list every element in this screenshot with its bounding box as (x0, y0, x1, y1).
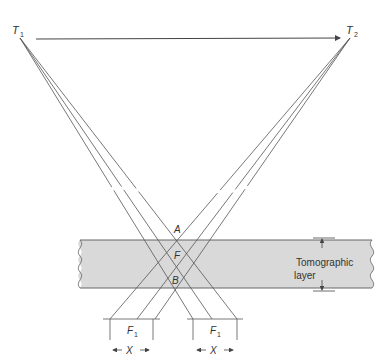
layer-label-line1: Tomographic (296, 257, 353, 268)
tube-t2-label: T (346, 24, 354, 36)
left-film-label: F (127, 325, 134, 336)
point-f-label: F (174, 250, 181, 261)
left-film-shift-label: X (125, 345, 133, 356)
tube-travel-arrow (36, 38, 340, 39)
point-b-label: B (172, 275, 179, 286)
right-film-subscript: 1 (217, 331, 221, 338)
tube-t1-label: T (12, 24, 20, 36)
tomography-diagram: T 1 T 2 A F B Tomographic layer F 1 X F … (0, 0, 380, 361)
right-film-shift-label: X (209, 345, 217, 356)
tube-t2-subscript: 2 (354, 31, 358, 38)
left-film-subscript: 1 (134, 331, 138, 338)
layer-label-line2: layer (294, 270, 316, 281)
tube-t1-subscript: 1 (20, 31, 24, 38)
right-film-label: F (210, 325, 217, 336)
point-a-label: A (173, 224, 181, 235)
